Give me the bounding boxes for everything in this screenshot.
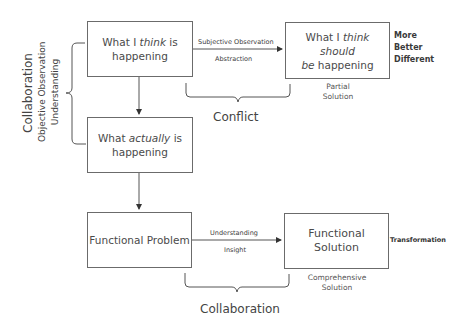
label-subjective-observation: Subjective Observation: [198, 38, 274, 46]
box-what-i-think-should-be-happening: What I think should be happening: [285, 22, 390, 79]
label-line: Solution: [308, 92, 368, 102]
box-text-emphasis: be: [301, 59, 314, 71]
label-line: Solution: [296, 283, 378, 293]
box-text: What I: [306, 31, 343, 43]
label-more-better-different: More Better Different: [394, 30, 434, 66]
label-line: Partial: [308, 82, 368, 92]
conflict-brace: [186, 83, 290, 102]
label-more: More: [394, 30, 434, 42]
box-what-actually-is-happening: What actually is happening: [87, 117, 193, 173]
connector-lines: [0, 0, 460, 329]
box-what-i-think-is-happening: What I think is happening: [87, 21, 193, 77]
label-transformation: Transformation: [390, 236, 446, 244]
label-understanding-left: Understanding: [49, 42, 61, 142]
label-objective-observation: Objective Observation: [36, 42, 48, 142]
label-collaboration-bottom: Collaboration: [200, 302, 280, 316]
label-partial-solution: Partial Solution: [308, 82, 368, 102]
label-different: Different: [394, 54, 434, 66]
label-line: Comprehensive: [296, 273, 378, 283]
box-text: Functional Solution: [285, 227, 388, 255]
label-understanding: Understanding: [210, 229, 258, 237]
box-text: What I: [102, 36, 139, 48]
label-abstraction: Abstraction: [215, 55, 252, 63]
box-text: Functional Problem: [89, 233, 189, 247]
box-text-emphasis: actually: [129, 132, 170, 144]
box-text: happening: [315, 59, 374, 71]
box-text-emphasis: think: [140, 36, 166, 48]
label-collaboration-left: Collaboration: [21, 43, 35, 143]
left-bracket: [66, 43, 86, 144]
label-better: Better: [394, 42, 434, 54]
box-functional-solution: Functional Solution: [284, 213, 389, 269]
box-text: What: [98, 132, 129, 144]
collaboration-brace: [185, 273, 289, 292]
box-functional-problem: Functional Problem: [87, 212, 192, 268]
label-conflict: Conflict: [213, 110, 259, 124]
label-insight: Insight: [224, 246, 246, 254]
label-comprehensive-solution: Comprehensive Solution: [296, 273, 378, 293]
